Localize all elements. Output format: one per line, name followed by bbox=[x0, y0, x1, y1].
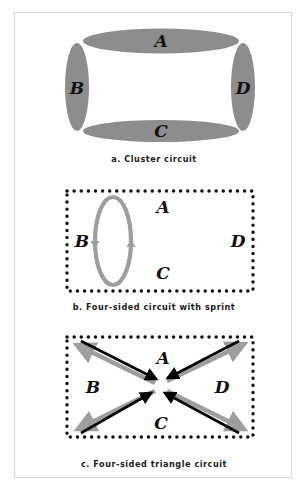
panel-a-caption: a. Cluster circuit bbox=[15, 154, 293, 164]
panel-a-diagram: A B C D bbox=[15, 17, 293, 159]
panel-b-sprint-arrowhead-down-icon bbox=[91, 241, 100, 249]
panel-b-label-a: A bbox=[154, 197, 169, 217]
panel-a-cluster-circuit: A B C D a. Cluster circuit bbox=[15, 17, 293, 175]
arrow-black-topleft-to-center bbox=[81, 341, 156, 379]
panel-a-label-a: A bbox=[152, 31, 167, 51]
panel-c-diagram: A B C D bbox=[15, 323, 293, 463]
panel-a-label-d: D bbox=[235, 78, 251, 98]
panel-a-label-c: C bbox=[154, 121, 168, 141]
arrow-black-bottomleft-to-center bbox=[81, 393, 151, 433]
panel-c-label-b: B bbox=[85, 377, 100, 397]
panel-b-label-c: C bbox=[156, 263, 170, 283]
panel-b-four-sided-circuit-with-sprint: A B C D b. Four-sided circuit with sprin… bbox=[15, 175, 293, 323]
figure-container: A B C D a. Cluster circuit A B C D bbox=[0, 0, 306, 493]
panel-b-caption: b. Four-sided circuit with sprint bbox=[15, 302, 293, 312]
panel-b-label-d: D bbox=[230, 231, 246, 251]
panel-b-label-b: B bbox=[74, 231, 89, 251]
arrow-black-bottomright-to-center bbox=[165, 393, 239, 433]
panel-b-sprint-arrowhead-up-icon bbox=[127, 240, 136, 248]
panel-a-label-b: B bbox=[69, 78, 84, 98]
panel-c-label-a: A bbox=[154, 348, 169, 368]
arrow-gray-center-to-bottomright bbox=[167, 391, 244, 429]
panel-c-label-c: C bbox=[154, 413, 168, 433]
figure-frame: A B C D a. Cluster circuit A B C D bbox=[14, 12, 292, 478]
panel-c-caption: c. Four-sided triangle circuit bbox=[15, 459, 293, 469]
arrow-gray-center-to-topright bbox=[167, 344, 244, 381]
panel-c-four-sided-triangle-circuit: A B C D c. Four-sided triangle circuit bbox=[15, 323, 293, 483]
panel-b-diagram: A B C D bbox=[15, 175, 293, 305]
arrow-black-topright-to-center bbox=[168, 341, 239, 378]
panel-c-label-d: D bbox=[214, 377, 230, 397]
panel-b-sprint-loop bbox=[95, 197, 131, 285]
